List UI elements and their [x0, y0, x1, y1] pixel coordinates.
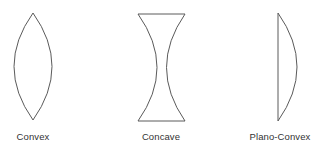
concave-lens-shape [138, 14, 185, 121]
convex-lens-shape [14, 13, 52, 120]
plano-convex-lens-shape [278, 13, 297, 121]
concave-label: Concave [142, 131, 180, 142]
plano-convex-label: Plano-Convex [250, 131, 311, 142]
convex-label: Convex [17, 131, 50, 142]
lens-diagram [0, 0, 321, 152]
